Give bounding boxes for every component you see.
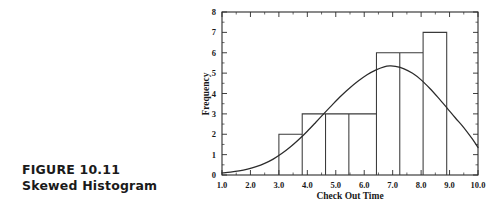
- y-tick-label: 3: [212, 109, 216, 119]
- histogram-bars: [279, 32, 447, 175]
- x-tick-label: 6.0: [359, 180, 370, 190]
- x-tick-label: 10.0: [471, 180, 486, 190]
- y-axis-tick-labels: 012345678: [212, 7, 217, 180]
- x-axis-tick-labels: 1.02.03.04.05.06.07.08.09.010.0: [217, 180, 486, 190]
- y-axis-title: Frequency: [201, 72, 211, 115]
- x-axis-minor-tick-marks: [236, 12, 464, 175]
- x-tick-label: 4.0: [302, 180, 313, 190]
- x-tick-label: 9.0: [444, 180, 455, 190]
- x-axis-title: Check Out Time: [316, 191, 383, 201]
- histogram-chart: 1.02.03.04.05.06.07.08.09.010.0 01234567…: [0, 0, 495, 219]
- y-tick-label: 5: [212, 68, 216, 78]
- figure-page: FIGURE 10.11 Skewed Histogram 1.02.03.04…: [0, 0, 495, 219]
- y-tick-label: 8: [212, 7, 216, 17]
- x-tick-label: 5.0: [330, 180, 341, 190]
- y-axis-tick-marks: [222, 12, 478, 175]
- x-axis-tick-marks: [222, 12, 478, 175]
- y-axis-minor-tick-marks: [222, 22, 478, 165]
- x-tick-label: 7.0: [387, 180, 398, 190]
- y-tick-label: 1: [212, 150, 216, 160]
- y-tick-label: 0: [212, 170, 216, 180]
- y-tick-label: 7: [212, 27, 217, 37]
- y-tick-label: 2: [212, 129, 216, 139]
- x-tick-label: 8.0: [416, 180, 427, 190]
- x-tick-label: 2.0: [245, 180, 256, 190]
- y-tick-label: 6: [212, 48, 216, 58]
- x-tick-label: 3.0: [274, 180, 285, 190]
- x-tick-label: 1.0: [217, 180, 228, 190]
- y-tick-label: 4: [212, 89, 217, 99]
- frequency-curve: [222, 66, 478, 173]
- plot-frame: [222, 12, 478, 175]
